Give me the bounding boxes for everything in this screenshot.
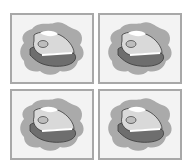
iron-clipart-icon [12, 15, 92, 82]
iron-window [126, 41, 136, 48]
iron-window [126, 117, 136, 124]
iron-window [38, 41, 48, 48]
image-grid [10, 13, 183, 159]
image-panel [10, 13, 94, 84]
image-panel [98, 89, 182, 160]
iron-clipart-icon [100, 91, 180, 158]
iron-clipart-icon [12, 91, 92, 158]
iron-clipart-icon [100, 15, 180, 82]
image-panel [10, 89, 94, 160]
image-panel [98, 13, 182, 84]
iron-window [38, 117, 48, 124]
